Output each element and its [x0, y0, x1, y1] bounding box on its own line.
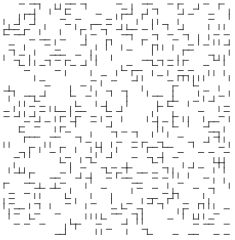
maze-figure-canvas — [0, 0, 235, 240]
maze-grid-svg — [0, 0, 235, 240]
